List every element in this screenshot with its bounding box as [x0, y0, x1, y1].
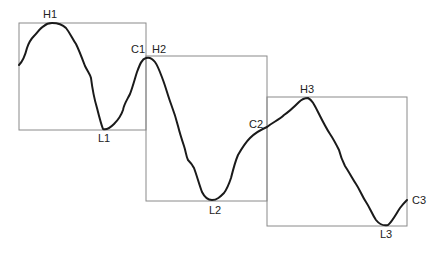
label-l2: L2: [209, 204, 221, 216]
price-curve: [19, 23, 407, 225]
label-c2: C2: [249, 118, 263, 130]
label-h2: H2: [152, 43, 166, 55]
price-cycle-diagram: H1 L1 C1 H2 L2 C2 H3 L3 C3: [0, 0, 439, 253]
label-l1: L1: [98, 132, 110, 144]
cycle-box-1: [19, 23, 146, 130]
cycle-box-3: [267, 97, 407, 226]
label-c3: C3: [412, 194, 426, 206]
label-c1: C1: [131, 43, 145, 55]
label-h3: H3: [300, 83, 314, 95]
label-l3: L3: [380, 228, 392, 240]
label-h1: H1: [43, 8, 57, 20]
